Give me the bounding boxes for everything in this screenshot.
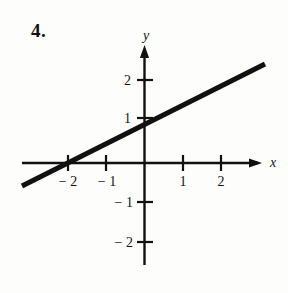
y-tick-label-neg2: − 2 — [115, 235, 133, 250]
y-axis-label: y — [141, 28, 150, 43]
y-tick-label-pos2: 2 — [124, 73, 131, 88]
x-axis-arrowhead — [249, 158, 262, 167]
x-tick-label-pos1: 1 — [180, 174, 187, 189]
coordinate-plot: y x − 2 − 1 1 2 2 1 − 1 − 2 — [0, 0, 288, 293]
x-tick-label-neg2: − 2 — [59, 174, 77, 189]
x-axis-label: x — [269, 155, 277, 170]
x-tick-label-pos2: 2 — [218, 174, 225, 189]
y-tick-label-pos1: 1 — [124, 111, 131, 126]
figure-container: 4. y x − 2 − 1 1 2 2 1 − 1 − 2 — [0, 0, 288, 293]
x-tick-label-neg1: − 1 — [98, 174, 116, 189]
y-axis-arrowhead — [140, 45, 149, 58]
y-tick-label-neg1: − 1 — [115, 195, 133, 210]
